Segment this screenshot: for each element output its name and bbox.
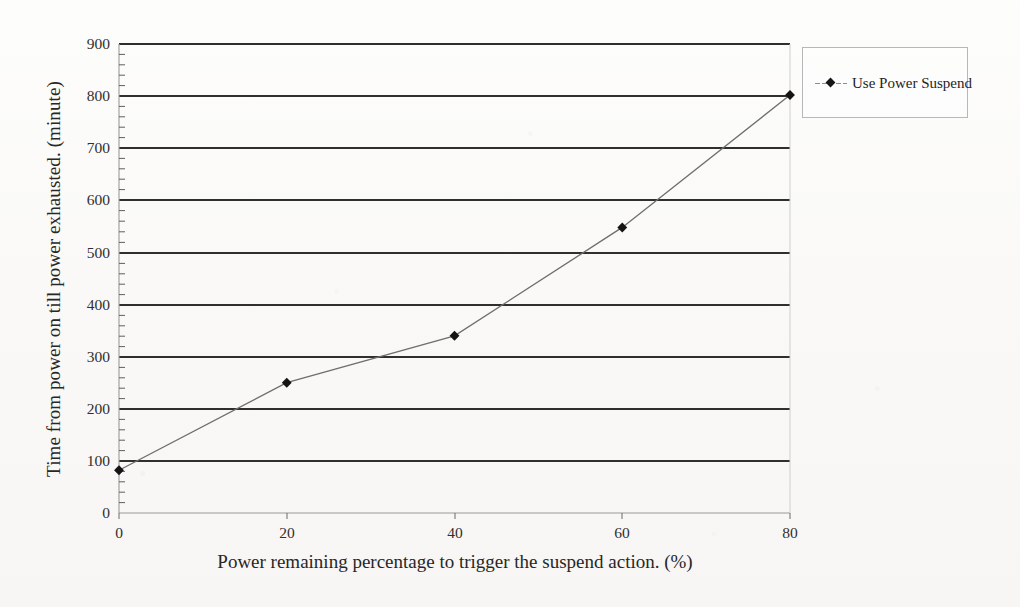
data-point-marker bbox=[114, 465, 124, 475]
line-chart-figure: Time from power on till power exhausted.… bbox=[0, 0, 1020, 607]
legend-entry: Use Power Suspend bbox=[815, 74, 972, 92]
legend-entry-label: Use Power Suspend bbox=[852, 75, 972, 92]
gridlines bbox=[119, 44, 790, 461]
y-minor-ticks bbox=[119, 54, 125, 502]
series-line bbox=[119, 95, 790, 470]
x-major-ticks bbox=[119, 513, 790, 519]
data-point-marker bbox=[450, 331, 460, 341]
chart-legend: Use Power Suspend bbox=[802, 47, 968, 118]
diamond-marker-icon bbox=[826, 78, 836, 88]
data-point-marker bbox=[282, 378, 292, 388]
legend-marker-icon bbox=[815, 77, 847, 89]
